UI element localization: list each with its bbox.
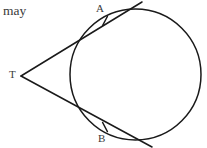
point-label-a: A (96, 3, 104, 14)
tangent-line-ta (21, 2, 142, 76)
tangent-line-tb (21, 76, 152, 147)
tick-mark-at-b (103, 122, 108, 131)
geometry-figure: may A B T (0, 0, 207, 148)
caption-label: may (3, 4, 26, 18)
point-label-t: T (9, 69, 16, 80)
circle-shape (70, 9, 201, 140)
point-label-b: B (98, 133, 105, 144)
geometry-canvas (0, 0, 207, 148)
